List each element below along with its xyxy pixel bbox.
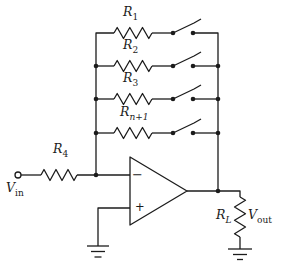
label-rl-sub: L <box>225 215 231 225</box>
ground-symbol-left <box>87 246 109 257</box>
label-r4-sub: 4 <box>62 149 68 159</box>
switch-3-contact-left <box>171 97 176 102</box>
switch-1-arm <box>173 19 201 33</box>
switch-1-contact-left <box>171 31 176 36</box>
junction-dot <box>94 97 99 102</box>
junction-dot <box>216 189 221 194</box>
switch-1-contact-right <box>191 31 196 36</box>
label-r3: R3 <box>123 72 138 88</box>
label-r1: R1 <box>123 6 138 22</box>
label-r3-main: R <box>123 70 132 85</box>
switch-2-arm <box>173 52 201 66</box>
junction-dot <box>216 64 221 69</box>
feedback-branch-rn1 <box>96 119 218 139</box>
label-vin-main: V <box>6 180 15 195</box>
circuit-diagram: R1 R2 R3 Rn+1 R4 Vin RL Vout − + <box>0 0 281 275</box>
junction-dot <box>94 131 99 136</box>
vin-terminal-circle <box>15 172 21 178</box>
label-r1-main: R <box>123 4 132 19</box>
switch-4-contact-left <box>171 131 176 136</box>
label-vout-sub: out <box>257 215 272 225</box>
label-r4-main: R <box>53 141 62 156</box>
feedback-branch-r2 <box>96 52 218 72</box>
label-rn1: Rn+1 <box>120 106 149 122</box>
label-vin: Vin <box>6 182 24 198</box>
label-r1-sub: 1 <box>132 12 138 22</box>
label-rl-main: R <box>216 207 225 222</box>
label-r4: R4 <box>53 143 68 159</box>
resistor-r2-zigzag <box>114 61 152 72</box>
label-r2-main: R <box>123 37 132 52</box>
right-bus <box>193 33 218 191</box>
schematic-svg <box>0 0 281 275</box>
resistor-r4-zigzag <box>41 170 77 181</box>
opamp-noninverting-sign: + <box>135 202 145 214</box>
wire <box>187 191 240 197</box>
label-vin-sub: in <box>15 188 24 198</box>
switch-4-arm <box>173 119 201 133</box>
switch-3-arm <box>173 85 201 99</box>
feedback-branch-r1 <box>114 19 201 39</box>
switch-2-contact-left <box>171 64 176 69</box>
feedback-branch-r3 <box>96 85 218 105</box>
resistor-rl-zigzag <box>235 197 246 237</box>
switch-3-contact-right <box>191 97 196 102</box>
junction-dot <box>94 173 99 178</box>
label-vout: Vout <box>248 209 272 225</box>
label-rl: RL <box>216 209 231 225</box>
resistor-rn1-zigzag <box>114 128 152 139</box>
junction-dot <box>94 64 99 69</box>
resistor-r3-zigzag <box>114 94 152 105</box>
label-r2: R2 <box>123 39 138 55</box>
switch-2-contact-right <box>191 64 196 69</box>
left-bus <box>96 33 114 175</box>
label-vout-main: V <box>248 207 257 222</box>
label-rn1-main: R <box>120 104 129 119</box>
junction-dots <box>94 31 221 194</box>
input-branch <box>15 170 130 181</box>
ground-symbol-right <box>228 249 252 260</box>
opamp-inverting-sign: − <box>132 168 143 181</box>
noninverting-ground-wire <box>98 208 130 246</box>
label-r3-sub: 3 <box>132 78 138 88</box>
switch-4-contact-right <box>191 131 196 136</box>
junction-dot <box>216 131 221 136</box>
resistor-r1-zigzag <box>114 28 152 39</box>
label-rn1-sub: n+1 <box>129 112 148 122</box>
junction-dot <box>216 97 221 102</box>
label-r2-sub: 2 <box>132 45 138 55</box>
